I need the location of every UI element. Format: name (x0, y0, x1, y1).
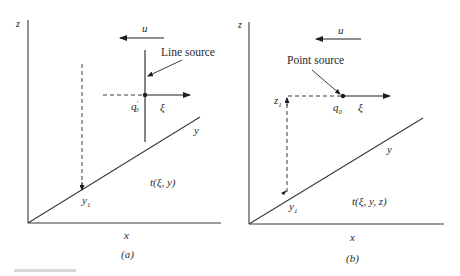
wind-label: u (142, 22, 148, 34)
y-axis (249, 118, 423, 224)
point-source-pointer-arrow (312, 70, 340, 94)
panel-a-caption: (a) (121, 248, 134, 261)
field-function-label: t(ξ, y, z) (352, 195, 387, 208)
receptor-label: y1 (81, 194, 90, 209)
cropped-figure-caption (14, 269, 76, 272)
z-axis-label: z (237, 19, 242, 30)
receptor-label: y1 (288, 200, 297, 215)
source-strength-label: q0 (333, 101, 343, 116)
source-dot (341, 94, 345, 98)
panel-b-caption: (b) (346, 252, 359, 265)
source-height-label: z1 (273, 94, 282, 109)
y-axis-label: y (386, 143, 392, 155)
xi-label: ξ (358, 101, 363, 114)
wind-label: u (338, 24, 344, 36)
receptor-base-arrowhead (281, 190, 287, 195)
y-axis (28, 117, 200, 223)
source-strength-label: q′0 (131, 99, 139, 114)
z-axis-label: z (15, 18, 20, 29)
y-axis-label: y (193, 124, 199, 136)
x-axis-label: x (123, 229, 129, 241)
source-dot (143, 93, 147, 97)
dispersion-figure: z x y u Line source q′0 ξ y1 t(ξ, y) (a) (0, 0, 460, 276)
line-source-pointer-arrow (148, 60, 182, 76)
x-axis-label: x (349, 231, 355, 243)
panel-b: z x y u Point source z1 q0 ξ y1 t(ξ, y, … (237, 19, 444, 265)
point-source-label: Point source (287, 54, 344, 66)
xi-label: ξ (160, 101, 165, 114)
line-source-label: Line source (161, 46, 215, 58)
panel-a: z x y u Line source q′0 ξ y1 t(ξ, y) (a) (15, 18, 221, 261)
field-function-label: t(ξ, y) (150, 176, 176, 189)
